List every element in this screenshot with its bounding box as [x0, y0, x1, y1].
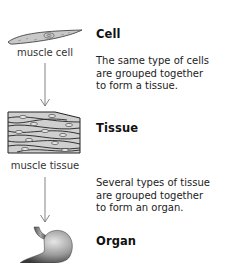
down-arrow-icon — [38, 176, 52, 224]
cell-heading: Cell — [96, 27, 121, 41]
muscle-cell-label: muscle cell — [0, 47, 90, 58]
tissue-to-organ-description: Several types of tissue are grouped toge… — [96, 177, 228, 215]
down-arrow-icon — [38, 62, 52, 108]
muscle-tissue-label: muscle tissue — [0, 160, 90, 171]
stomach-organ-icon — [18, 226, 78, 263]
muscle-tissue-icon — [7, 110, 81, 154]
tissue-heading: Tissue — [96, 121, 138, 135]
muscle-cell-icon — [6, 27, 84, 47]
organ-heading: Organ — [96, 234, 136, 248]
cell-to-tissue-description: The same type of cells are grouped toget… — [96, 55, 228, 93]
